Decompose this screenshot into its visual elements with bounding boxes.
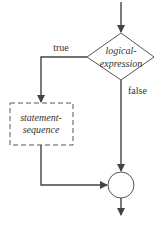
process-text-line1: statement- — [20, 112, 62, 123]
merge-line — [41, 145, 107, 185]
true-branch-line — [41, 57, 87, 102]
junction-circle — [108, 172, 134, 198]
process-text-line2: sequence — [23, 124, 60, 135]
decision-text-line2: expression — [100, 58, 142, 69]
flowchart: logical- expression true false statement… — [0, 0, 162, 228]
decision-text-line1: logical- — [105, 45, 136, 56]
decision-diamond — [87, 33, 154, 80]
true-label: true — [53, 42, 69, 53]
false-label: false — [128, 85, 147, 96]
